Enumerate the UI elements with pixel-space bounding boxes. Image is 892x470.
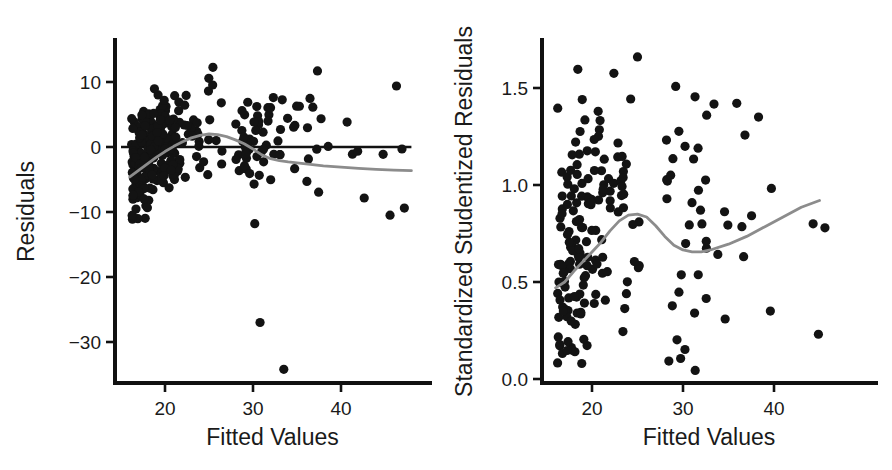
data-point xyxy=(578,223,587,232)
data-point xyxy=(599,185,608,194)
data-point xyxy=(128,124,137,133)
data-point xyxy=(668,301,677,310)
data-point xyxy=(266,103,275,112)
y-tick-label: 0 xyxy=(90,137,101,158)
data-point xyxy=(595,116,604,125)
data-point xyxy=(170,91,179,100)
data-point xyxy=(662,135,671,144)
data-point xyxy=(205,115,214,124)
data-point xyxy=(583,146,592,155)
data-point xyxy=(702,294,711,303)
data-point xyxy=(140,153,149,162)
data-point xyxy=(619,173,628,182)
data-point xyxy=(276,125,285,134)
data-point xyxy=(553,104,562,113)
data-point xyxy=(128,211,137,220)
data-point xyxy=(701,175,710,184)
y-tick-label: 10 xyxy=(80,72,101,93)
data-point xyxy=(676,354,685,363)
data-point xyxy=(279,365,288,374)
data-point xyxy=(129,191,138,200)
data-point xyxy=(137,130,146,139)
data-point xyxy=(141,121,150,130)
data-point xyxy=(555,340,564,349)
data-point xyxy=(571,137,580,146)
data-point xyxy=(303,123,312,132)
y-tick-label: 0.5 xyxy=(502,272,528,293)
data-point xyxy=(687,198,696,207)
data-point xyxy=(316,114,325,123)
data-point xyxy=(820,223,829,232)
data-point xyxy=(217,98,226,107)
data-point xyxy=(677,270,686,279)
y-axis-title: Residuals xyxy=(13,161,39,262)
data-point xyxy=(171,123,180,132)
right-plot-content: 1.51.00.50.0203040Fitted ValuesStandardi… xyxy=(451,26,876,450)
x-tick-label: 40 xyxy=(330,398,351,419)
data-point xyxy=(217,159,226,168)
y-tick-label: 1.0 xyxy=(502,175,528,196)
data-point xyxy=(192,152,201,161)
data-point xyxy=(392,81,401,90)
y-tick-label: 1.5 xyxy=(502,78,528,99)
data-point xyxy=(379,150,388,159)
data-point xyxy=(603,267,612,276)
data-point xyxy=(590,166,599,175)
data-point xyxy=(600,155,609,164)
residuals-vs-fitted-panel: 100−10−20−30203040Fitted ValuesResiduals xyxy=(0,0,446,470)
data-point xyxy=(579,280,588,289)
data-point xyxy=(587,226,596,235)
data-point xyxy=(580,299,589,308)
data-point xyxy=(694,270,703,279)
data-point xyxy=(250,219,259,228)
data-point xyxy=(159,171,168,180)
data-point xyxy=(689,154,698,163)
data-point xyxy=(570,292,579,301)
data-point xyxy=(591,147,600,156)
data-point xyxy=(723,220,732,229)
data-point xyxy=(160,96,169,105)
x-tick-label: 20 xyxy=(581,398,602,419)
data-point xyxy=(598,253,607,262)
data-point xyxy=(558,192,567,201)
data-point xyxy=(662,194,671,203)
data-point xyxy=(295,102,304,111)
data-point xyxy=(255,318,264,327)
data-point xyxy=(273,136,282,145)
data-point xyxy=(193,118,202,127)
data-point xyxy=(237,106,246,115)
data-point xyxy=(290,164,299,173)
data-point xyxy=(343,117,352,126)
data-point xyxy=(360,193,369,202)
data-point xyxy=(127,114,136,123)
data-point xyxy=(302,177,311,186)
x-axis-title: Fitted Values xyxy=(206,424,339,450)
data-point xyxy=(694,186,703,195)
data-point xyxy=(314,188,323,197)
data-point xyxy=(633,52,642,61)
data-point xyxy=(573,170,582,179)
x-tick-label: 30 xyxy=(242,398,263,419)
data-point xyxy=(171,133,180,142)
data-point xyxy=(575,215,584,224)
data-point xyxy=(666,171,675,180)
data-point xyxy=(732,99,741,108)
data-point xyxy=(569,206,578,215)
data-point xyxy=(181,173,190,182)
data-point xyxy=(239,133,248,142)
data-point xyxy=(580,115,589,124)
data-point xyxy=(217,146,226,155)
left-plot-content: 100−10−20−30203040Fitted ValuesResiduals xyxy=(13,40,430,450)
data-point xyxy=(664,356,673,365)
data-point xyxy=(591,290,600,299)
data-point xyxy=(767,184,776,193)
data-point xyxy=(696,206,705,215)
data-point xyxy=(619,203,628,212)
y-tick-label: −20 xyxy=(69,267,101,288)
data-point xyxy=(567,191,576,200)
data-point xyxy=(620,304,629,313)
data-point xyxy=(618,327,627,336)
data-point xyxy=(249,179,258,188)
data-point xyxy=(555,295,564,304)
x-axis-title: Fitted Values xyxy=(643,424,776,450)
